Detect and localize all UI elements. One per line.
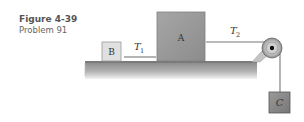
svg-text:1: 1 <box>140 47 144 55</box>
block-c-label: C <box>276 97 284 108</box>
block-c: C <box>269 92 290 113</box>
tension-label-t2: T 2 <box>230 25 240 39</box>
table-surface <box>85 61 257 79</box>
svg-text:2: 2 <box>236 31 240 39</box>
physics-diagram: B A C T 1 T 2 <box>0 0 304 122</box>
tension-label-t1: T 1 <box>134 41 144 55</box>
block-b: B <box>102 42 121 61</box>
pulley-icon <box>262 38 282 58</box>
block-a: A <box>157 12 205 61</box>
block-a-label: A <box>177 33 185 43</box>
block-b-label: B <box>108 47 115 57</box>
